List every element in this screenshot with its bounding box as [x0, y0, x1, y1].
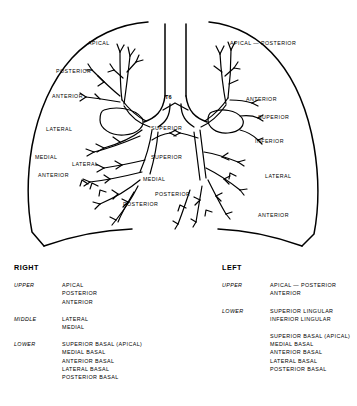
diagram-label-center-superior: SUPERIOR	[151, 126, 182, 131]
legend-column-left: LEFT UPPER APICAL — POSTERIOR ANTERIOR L…	[222, 264, 357, 382]
legend-group-right-middle: MIDDLE LATERAL MEDIAL	[14, 315, 189, 331]
right-main-bronchus-outer	[144, 96, 165, 122]
diagram-label-right-anterior-2: ANTERIOR	[38, 173, 69, 178]
segment-legend: RIGHT UPPER APICAL POSTERIOR ANTERIOR MI…	[0, 264, 357, 406]
diagram-label-right-apical: APICAL	[88, 41, 110, 46]
legend-group-right-upper: UPPER APICAL POSTERIOR ANTERIOR	[14, 281, 189, 306]
right-lung-base	[44, 229, 132, 246]
legend-segment-list: LATERAL MEDIAL	[14, 315, 189, 331]
legend-lobe-name: LOWER	[14, 340, 36, 348]
diagram-label-right-anterior: ANTERIOR	[52, 94, 83, 99]
legend-group-left-lower-basal: SUPERIOR BASAL (APICAL) MEDIAL BASAL ANT…	[222, 332, 357, 373]
legend-segment-item: MEDIAL	[62, 323, 189, 331]
legend-segment-item: APICAL — POSTERIOR	[270, 281, 357, 289]
legend-segment-item: POSTERIOR BASAL	[62, 373, 189, 381]
diagram-label-left-inferior: INFERIOR	[255, 139, 284, 144]
legend-column-right: RIGHT UPPER APICAL POSTERIOR ANTERIOR MI…	[14, 264, 189, 390]
legend-lobe-name: UPPER	[222, 281, 242, 289]
left-main-bronchus-outer	[186, 96, 207, 122]
legend-group-left-lower: LOWER SUPERIOR LINGULAR INFERIOR LINGULA…	[222, 307, 357, 323]
carina-peak	[163, 103, 188, 110]
legend-segment-item: LATERAL BASAL	[270, 357, 357, 365]
legend-group-left-upper: UPPER APICAL — POSTERIOR ANTERIOR	[222, 281, 357, 297]
legend-segment-item: LATERAL BASAL	[62, 365, 189, 373]
legend-group-right-lower: LOWER SUPERIOR BASAL (APICAL) MEDIAL BAS…	[14, 340, 189, 381]
diagram-label-left-anterior: ANTERIOR	[246, 97, 277, 102]
legend-segment-item: SUPERIOR LINGULAR	[270, 307, 357, 315]
legend-segment-item: APICAL	[62, 281, 189, 289]
right-bronchial-tree	[80, 44, 176, 225]
diagram-label-right-lateral-2: LATERAL	[72, 162, 98, 167]
diagram-label-center-superior-2: SUPERIOR	[151, 155, 182, 160]
legend-title-right: RIGHT	[14, 264, 189, 271]
diagram-label-right-lateral: LATERAL	[46, 127, 72, 132]
legend-segment-item: MEDIAL BASAL	[62, 348, 189, 356]
legend-segment-list: APICAL POSTERIOR ANTERIOR	[14, 281, 189, 306]
legend-segment-item: ANTERIOR BASAL	[62, 357, 189, 365]
legend-lobe-name: UPPER	[14, 281, 34, 289]
legend-segment-item: MEDIAL BASAL	[270, 340, 357, 348]
lung-diagram-svg	[0, 0, 357, 268]
diagram-label-right-posterior: POSTERIOR	[56, 69, 91, 74]
diagram-label-left-superior: SUPERIOR	[258, 115, 289, 120]
legend-segment-list: SUPERIOR BASAL (APICAL) MEDIAL BASAL ANT…	[14, 340, 189, 381]
legend-lobe-name: LOWER	[222, 307, 244, 315]
legend-segment-item: SUPERIOR BASAL (APICAL)	[62, 340, 189, 348]
diagram-label-t6-vertebra: T6	[165, 95, 172, 101]
legend-segment-item: ANTERIOR BASAL	[270, 348, 357, 356]
legend-segment-list: SUPERIOR BASAL (APICAL) MEDIAL BASAL ANT…	[222, 332, 357, 373]
diagram-label-left-apical-posterior: APICAL — POSTERIOR	[230, 41, 296, 46]
left-lung-base	[218, 229, 302, 246]
diagram-label-center-posterior: POSTERIOR	[155, 192, 190, 197]
legend-segment-item: INFERIOR LINGULAR	[270, 315, 357, 323]
diagram-label-left-anterior-2: ANTERIOR	[258, 213, 289, 218]
diagram-label-right-posterior-2: POSTERIOR	[123, 202, 158, 207]
legend-segment-item: SUPERIOR BASAL (APICAL)	[270, 332, 357, 340]
diagram-label-left-lateral: LATERAL	[265, 174, 291, 179]
legend-title-left: LEFT	[222, 264, 357, 271]
legend-segment-item: ANTERIOR	[62, 298, 189, 306]
legend-lobe-name: MIDDLE	[14, 315, 36, 323]
lung-anatomy-diagram: APICAL POSTERIOR ANTERIOR LATERAL MEDIAL…	[0, 0, 357, 268]
legend-segment-item: LATERAL	[62, 315, 189, 323]
legend-segment-item: POSTERIOR BASAL	[270, 365, 357, 373]
legend-segment-item: POSTERIOR	[62, 289, 189, 297]
diagram-label-right-medial: MEDIAL	[35, 155, 57, 160]
legend-segment-item: ANTERIOR	[270, 289, 357, 297]
diagram-label-center-medial: MEDIAL	[143, 177, 165, 182]
